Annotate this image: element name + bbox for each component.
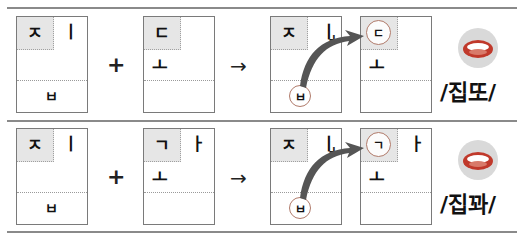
pronunciation: /집꽈/ [440, 186, 496, 218]
row-1: ㅈ ㅣ ㅂ + ㄷ ㅗ → ㅈ ㅣ + ㅂ ㄷ ㅗ /집또/ [0, 16, 523, 116]
mouth-icon [458, 28, 498, 68]
mouth-icon [458, 140, 498, 180]
middle-divider [7, 120, 517, 122]
pronunciation: /집또/ [440, 74, 496, 106]
bottom-divider [7, 231, 517, 233]
top-divider [7, 7, 517, 9]
row-2: ㅈ ㅣ ㅂ + ㄱ ㅏ ㅗ → ㅈ ㅣ + ㅂ ㄱ ㅏ ㅗ /집꽈/ [0, 128, 523, 228]
